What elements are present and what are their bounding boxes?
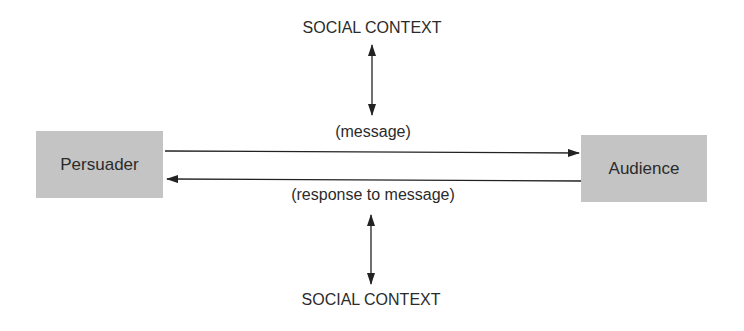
persuader-node: Persuader [36, 131, 163, 198]
message-label: (message) [335, 123, 411, 141]
persuasion-diagram: SOCIAL CONTEXT SOCIAL CONTEXT (message) … [0, 0, 744, 331]
social-context-top-label: SOCIAL CONTEXT [303, 19, 442, 37]
social-context-bottom-label: SOCIAL CONTEXT [302, 291, 441, 309]
response-arrow [167, 179, 581, 181]
persuader-label: Persuader [60, 155, 138, 175]
response-label: (response to message) [291, 186, 455, 204]
audience-label: Audience [609, 159, 680, 179]
message-arrow [165, 151, 579, 153]
audience-node: Audience [581, 135, 707, 202]
